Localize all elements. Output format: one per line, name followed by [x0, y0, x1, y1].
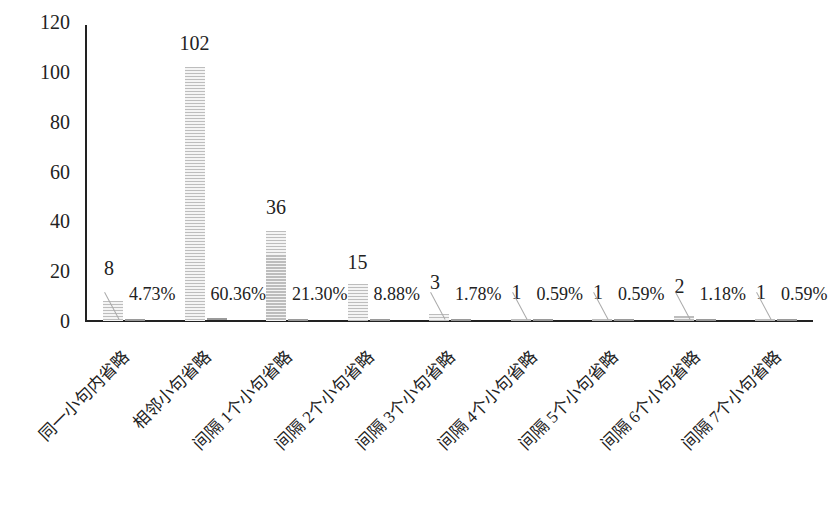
y-tick-label: 20 [10, 261, 70, 281]
count-bar [429, 314, 449, 321]
percent-bar [451, 319, 471, 321]
percent-bar [288, 319, 308, 321]
percent-label: 0.59% [781, 285, 828, 303]
count-bar [185, 67, 205, 321]
y-tick-label: 40 [10, 211, 70, 231]
value-label: 3 [415, 272, 455, 292]
value-label: 2 [660, 276, 700, 296]
count-bar [266, 231, 286, 321]
percent-bar [533, 319, 553, 321]
percent-bar [125, 319, 145, 321]
value-label: 8 [89, 258, 129, 278]
percent-label: 8.88% [374, 285, 421, 303]
percent-label: 1.78% [455, 285, 502, 303]
percent-bar [777, 319, 797, 321]
y-tick-label: 0 [10, 311, 70, 331]
percent-bar [370, 319, 390, 321]
percent-label: 0.59% [618, 285, 665, 303]
y-axis-line [85, 25, 87, 321]
y-tick-label: 100 [10, 62, 70, 82]
percent-label: 0.59% [537, 285, 584, 303]
count-bar [592, 319, 612, 321]
bar-chart: 020406080100120 84.73%10260.36%3621.30%1… [0, 0, 832, 515]
value-label: 15 [338, 252, 378, 272]
count-bar [348, 284, 368, 321]
count-bar [755, 319, 775, 321]
y-tick-label: 120 [10, 12, 70, 32]
percent-label: 1.18% [700, 285, 747, 303]
percent-bar [207, 318, 227, 320]
figure-caption [0, 505, 832, 515]
value-label: 36 [256, 197, 296, 217]
percent-bar [614, 319, 634, 321]
percent-label: 21.30% [292, 285, 348, 303]
percent-label: 4.73% [129, 285, 176, 303]
percent-bar [696, 319, 716, 321]
percent-label: 60.36% [211, 285, 267, 303]
y-tick-label: 60 [10, 162, 70, 182]
value-label: 102 [175, 33, 215, 53]
y-tick-label: 80 [10, 112, 70, 132]
